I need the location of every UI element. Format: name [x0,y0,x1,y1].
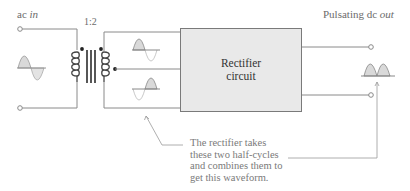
input-wiring [18,27,77,111]
annotation-text: The rectifier takes these two half-cycle… [190,137,282,183]
annotation-line: and combines them to [190,160,282,172]
annotation-line: The rectifier takes [190,137,282,149]
rectifier-label-line1: Rectifier [221,57,261,70]
input-label-prefix: ac [17,8,30,20]
rectifier-label-line2: circuit [226,70,255,83]
output-wiring [302,45,373,98]
annotation-line: get this waveform. [190,172,282,184]
input-label: ac in [17,9,38,20]
output-label-italic: out [380,8,394,20]
half-cycle-bottom-icon [132,78,160,100]
polarity-dots [80,47,117,71]
pulsating-dc-wave-icon [361,64,395,76]
input-label-italic: in [30,8,39,20]
transformer-icon [72,50,110,83]
input-sine-wave-icon [17,56,46,80]
output-label-prefix: Pulsating dc [323,8,380,20]
rectifier-label: Rectifier circuit [180,28,302,112]
transformer-ratio: 1:2 [84,17,97,27]
half-cycle-top-icon [132,39,160,61]
output-label: Pulsating dc out [323,9,394,20]
annotation-line: these two half-cycles [190,149,282,161]
